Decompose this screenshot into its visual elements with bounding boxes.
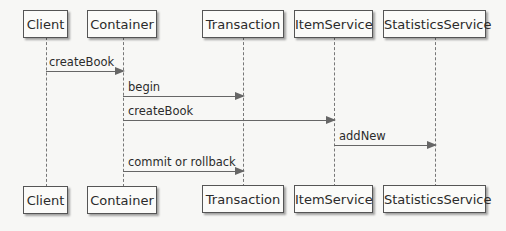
message-arrow-createbook-1 [46,71,123,72]
participant-container-bottom: Container [87,186,157,214]
arrowhead-icon [235,92,245,100]
participant-itemservice-bottom: ItemService [294,185,373,213]
participant-itemservice-top: ItemService [294,10,373,38]
message-arrow-addnew [334,145,435,146]
lifeline-statisticsservice [435,37,436,187]
message-arrow-begin [123,96,243,97]
message-label-addnew: addNew [339,129,386,143]
participant-statisticsservice-top: StatisticsService [383,10,486,38]
arrowhead-icon [115,67,125,75]
message-arrow-commit-or-rollback [123,171,243,172]
message-label-commit-or-rollback: commit or rollback [128,155,236,169]
lifeline-client [46,37,47,187]
arrowhead-icon [326,116,336,124]
message-label-begin: begin [128,80,160,94]
lifeline-transaction [243,37,244,187]
participant-container-top: Container [87,10,157,38]
participant-client-bottom: Client [23,186,68,214]
lifeline-container [123,37,124,187]
participant-statisticsservice-bottom: StatisticsService [383,185,486,213]
message-label-createbook-2: createBook [128,104,193,118]
lifeline-itemservice [334,37,335,187]
arrowhead-icon [427,141,437,149]
participant-client-top: Client [23,10,68,38]
arrowhead-icon [235,167,245,175]
message-label-createbook-1: createBook [49,55,114,69]
participant-transaction-bottom: Transaction [202,185,284,213]
participant-transaction-top: Transaction [202,10,284,38]
message-arrow-createbook-2 [123,120,334,121]
